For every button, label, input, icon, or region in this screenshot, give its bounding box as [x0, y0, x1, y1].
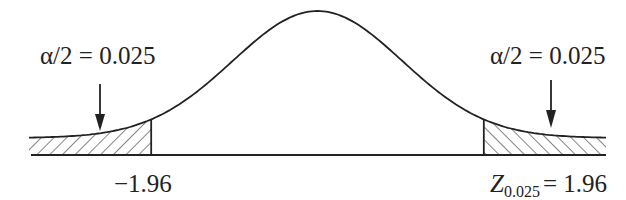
left-arrow — [95, 84, 105, 131]
left-critical-value: −1.96 — [114, 170, 172, 197]
z-subscript: 0.025 — [504, 183, 540, 200]
right-tail-label: α/2 = 0.025 — [490, 42, 605, 69]
right-critical-value: = 1.96 — [543, 170, 607, 197]
normal-curve — [29, 11, 606, 138]
right-arrow — [546, 80, 556, 128]
normal-curve-diagram: α/2 = 0.025 α/2 = 0.025 −1.96 Z0.025= 1.… — [0, 0, 626, 200]
right-critical-label: Z0.025= 1.96 — [490, 170, 607, 200]
left-tail-label: α/2 = 0.025 — [40, 42, 155, 69]
z-symbol: Z — [490, 170, 505, 197]
